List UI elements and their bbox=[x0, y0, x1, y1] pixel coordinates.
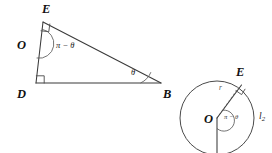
circle-point-label-e: E bbox=[236, 66, 244, 79]
vertex-label-b: B bbox=[163, 88, 171, 101]
vertex-label-e: E bbox=[42, 3, 50, 16]
angle-label-o-pi-minus-theta: π − θ bbox=[56, 41, 74, 50]
segment-e-b bbox=[43, 22, 161, 83]
figure-vector-graphics bbox=[0, 0, 272, 153]
circle-center-label-o: O bbox=[204, 113, 213, 126]
right-angle-mark-d bbox=[36, 76, 44, 83]
figure-canvas: E O D B π − θ θ E O r π − θ l2 bbox=[0, 0, 272, 153]
circle-tangent-group bbox=[180, 81, 254, 153]
radius-label-r: r bbox=[219, 84, 222, 92]
line-label-l2: l2 bbox=[259, 112, 265, 122]
circle-angle-label-pi-minus-theta: π − θ bbox=[224, 114, 238, 121]
vertex-label-d: D bbox=[17, 88, 26, 101]
angle-arc-b bbox=[141, 72, 151, 83]
angle-label-b-theta: θ bbox=[131, 68, 135, 77]
triangle-deb-group bbox=[36, 22, 161, 83]
vertex-label-o: O bbox=[17, 39, 26, 52]
line-label-l2-subscript: 2 bbox=[262, 115, 265, 122]
